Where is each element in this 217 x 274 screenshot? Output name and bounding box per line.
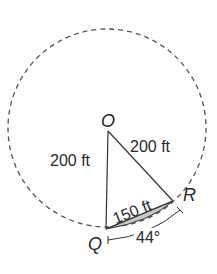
arc-angle-label: 44° — [136, 229, 160, 246]
length-label-oq: 200 ft — [50, 152, 91, 169]
point-label-q: Q — [88, 234, 102, 254]
length-label-or: 200 ft — [130, 138, 171, 155]
point-label-o: O — [101, 111, 115, 131]
circle-segment-diagram: O Q R 200 ft 200 ft 150 ft 44° — [0, 0, 217, 274]
point-label-r: R — [183, 185, 196, 205]
radius-oq — [106, 131, 108, 229]
